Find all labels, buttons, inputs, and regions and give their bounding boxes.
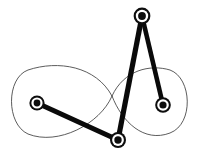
linkage-diagram	[0, 0, 199, 157]
linkage-figure-canvas	[0, 0, 199, 157]
right-pivot-core-dot	[159, 101, 166, 108]
joint-bottom-pivot	[110, 132, 126, 148]
joint-top-pivot	[134, 8, 151, 25]
left-pivot-core-dot	[34, 100, 41, 107]
link-left-to-bottom	[37, 103, 118, 140]
joint-right-pivot	[155, 97, 171, 113]
bottom-pivot-core-dot	[114, 136, 121, 143]
link-bottom-to-top	[118, 16, 142, 140]
link-top-to-right	[142, 16, 163, 105]
joint-left-pivot	[29, 95, 44, 110]
top-pivot-core-dot	[138, 12, 146, 20]
